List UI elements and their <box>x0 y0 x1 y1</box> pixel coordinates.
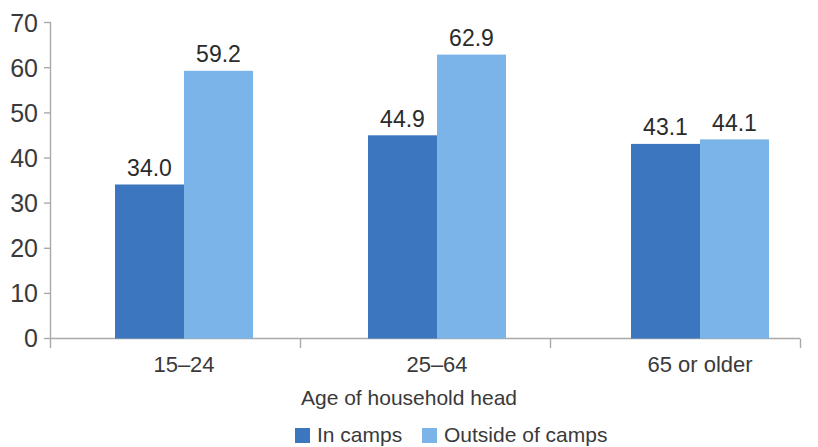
y-tick-label-20: 20 <box>10 234 38 262</box>
x-axis-ticks <box>51 339 801 349</box>
y-tick-label-50: 50 <box>10 99 38 127</box>
bar-group-65-or-older: 43.1 44.1 65 or older <box>631 110 769 377</box>
x-tick-label-65-or-older: 65 or older <box>647 352 752 377</box>
bar-outside-of-camps-15-24[interactable] <box>184 71 253 339</box>
bar-outside-of-camps-25-64[interactable] <box>437 55 506 339</box>
y-tick-label-10: 10 <box>10 279 38 307</box>
value-label-outside-of-camps-15-24: 59.2 <box>196 41 241 67</box>
value-label-in-camps-25-64: 44.9 <box>380 106 425 132</box>
value-label-outside-of-camps-25-64: 62.9 <box>449 25 494 51</box>
legend-swatch-in-camps <box>295 428 310 443</box>
bar-outside-of-camps-65-or-older[interactable] <box>700 139 769 338</box>
y-tick-label-0: 0 <box>24 324 38 352</box>
bar-chart: 0 10 20 30 40 50 60 70 34.0 59.2 15–24 <box>0 0 818 447</box>
legend-label-in-camps[interactable]: In camps <box>317 423 402 446</box>
x-axis-title: Age of household head <box>301 386 517 409</box>
bar-group-15-24: 34.0 59.2 15–24 <box>115 41 253 377</box>
legend-swatch-outside-of-camps <box>422 428 437 443</box>
value-label-in-camps-65-or-older: 43.1 <box>643 114 688 140</box>
y-tick-label-40: 40 <box>10 144 38 172</box>
legend-label-outside-of-camps[interactable]: Outside of camps <box>444 423 607 446</box>
bar-in-camps-25-64[interactable] <box>368 135 437 338</box>
x-tick-label-15-24: 15–24 <box>153 352 214 377</box>
bar-in-camps-15-24[interactable] <box>115 185 184 339</box>
bar-in-camps-65-or-older[interactable] <box>631 144 700 339</box>
value-label-in-camps-15-24: 34.0 <box>127 155 172 181</box>
y-axis-tick-labels: 0 10 20 30 40 50 60 70 <box>10 9 38 352</box>
y-axis-ticks <box>44 23 51 339</box>
value-label-outside-of-camps-65-or-older: 44.1 <box>712 110 757 136</box>
bar-group-25-64: 44.9 62.9 25–64 <box>368 25 506 377</box>
y-tick-label-60: 60 <box>10 54 38 82</box>
y-tick-label-70: 70 <box>10 9 38 37</box>
chart-canvas: 0 10 20 30 40 50 60 70 34.0 59.2 15–24 <box>0 0 818 447</box>
chart-legend: In camps Outside of camps <box>295 423 607 446</box>
y-tick-label-30: 30 <box>10 189 38 217</box>
x-tick-label-25-64: 25–64 <box>406 352 467 377</box>
